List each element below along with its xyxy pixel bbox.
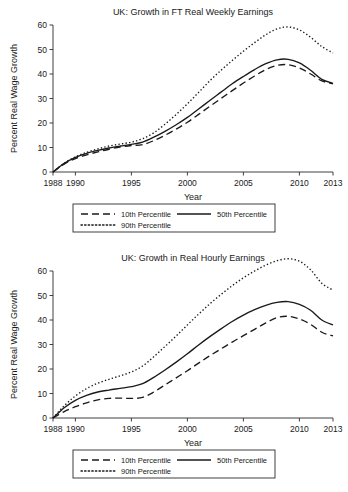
x-axis-title: Year: [184, 192, 202, 202]
x-tick-label: 2005: [234, 424, 253, 434]
weekly-earnings-chart: UK: Growth in FT Real Weekly Earnings010…: [0, 0, 348, 246]
x-tick-label: 2000: [178, 424, 197, 434]
x-tick-label: 2010: [290, 424, 309, 434]
chart-title: UK: Growth in Real Hourly Earnings: [121, 253, 265, 263]
x-axis-title: Year: [184, 438, 202, 448]
x-tick-label: 1995: [122, 178, 141, 188]
hourly-earnings-chart: UK: Growth in Real Hourly Earnings010203…: [0, 246, 348, 492]
chart-panel-hourly-earnings: UK: Growth in Real Hourly Earnings010203…: [0, 246, 348, 492]
y-tick-label: 20: [38, 364, 48, 374]
x-tick-label: 1988: [44, 424, 63, 434]
chart-title: UK: Growth in FT Real Weekly Earnings: [113, 7, 274, 17]
y-tick-label: 20: [38, 118, 48, 128]
y-tick-label: 40: [38, 315, 48, 325]
x-tick-label: 2013: [324, 424, 343, 434]
x-tick-label: 2013: [324, 178, 343, 188]
y-tick-label: 60: [38, 20, 48, 30]
series-line-50th-percentile: [53, 59, 333, 172]
x-tick-label: 1990: [66, 178, 85, 188]
legend-label-50th-percentile: 50th Percentile: [217, 210, 267, 219]
series-line-10th-percentile: [53, 316, 333, 418]
y-tick-label: 30: [38, 94, 48, 104]
x-tick-label: 1988: [44, 178, 63, 188]
legend-label-90th-percentile: 90th Percentile: [121, 467, 171, 476]
series-line-90th-percentile: [53, 259, 333, 418]
y-tick-label: 0: [42, 413, 47, 423]
y-tick-label: 50: [38, 45, 48, 55]
y-axis-title: Percent Real Wage Growth: [9, 290, 19, 399]
y-axis-title: Percent Real Wage Growth: [9, 44, 19, 153]
y-tick-label: 30: [38, 340, 48, 350]
y-tick-label: 40: [38, 69, 48, 79]
x-tick-label: 2005: [234, 178, 253, 188]
y-tick-label: 50: [38, 291, 48, 301]
y-tick-label: 10: [38, 389, 48, 399]
y-tick-label: 60: [38, 266, 48, 276]
y-tick-label: 10: [38, 143, 48, 153]
series-line-90th-percentile: [53, 27, 333, 172]
x-tick-label: 2000: [178, 178, 197, 188]
x-tick-label: 2010: [290, 178, 309, 188]
figure-container: UK: Growth in FT Real Weekly Earnings010…: [0, 0, 348, 492]
x-tick-label: 1990: [66, 424, 85, 434]
chart-panel-weekly-earnings: UK: Growth in FT Real Weekly Earnings010…: [0, 0, 348, 246]
legend-label-10th-percentile: 10th Percentile: [121, 210, 171, 219]
y-tick-label: 0: [42, 167, 47, 177]
x-tick-label: 1995: [122, 424, 141, 434]
legend-label-90th-percentile: 90th Percentile: [121, 221, 171, 230]
series-line-10th-percentile: [53, 65, 333, 172]
legend-label-50th-percentile: 50th Percentile: [217, 456, 267, 465]
legend-label-10th-percentile: 10th Percentile: [121, 456, 171, 465]
